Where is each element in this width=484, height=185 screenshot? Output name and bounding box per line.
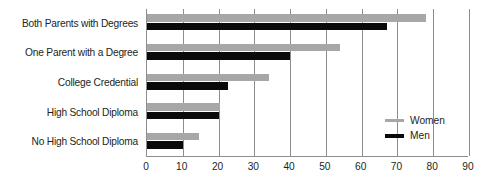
legend-swatch-men (385, 134, 404, 138)
bar-men (147, 23, 387, 31)
legend-label: Men (410, 130, 430, 142)
category-label: High School Diploma (0, 107, 138, 118)
bar-group (147, 44, 469, 61)
legend-item-women: Women (385, 113, 475, 128)
x-tick-label-0: 0 (143, 160, 149, 173)
bar-women (147, 103, 220, 111)
x-tick-label-50: 50 (319, 160, 330, 173)
chart-legend: WomenMen (385, 113, 475, 143)
x-tick-label-70: 70 (391, 160, 402, 173)
legend-swatch-women (385, 119, 404, 122)
bar-women (147, 14, 426, 22)
bar-men (147, 141, 183, 149)
legend-item-men: Men (385, 128, 475, 143)
bar-women (147, 74, 269, 82)
bar-group (147, 14, 469, 31)
bar-chart: Both Parents with DegreesOne Parent with… (0, 0, 484, 185)
x-tick-label-30: 30 (248, 160, 259, 173)
bar-men (147, 82, 228, 90)
category-label: Both Parents with Degrees (0, 18, 138, 29)
x-tick-label-60: 60 (355, 160, 366, 173)
x-tick-label-90: 90 (462, 160, 473, 173)
x-tick-label-10: 10 (176, 160, 187, 173)
category-label: College Credential (0, 77, 138, 88)
bar-men (147, 52, 290, 60)
category-label: No High School Diploma (0, 136, 138, 147)
bar-women (147, 133, 199, 141)
x-tick-label-40: 40 (283, 160, 294, 173)
category-axis: Both Parents with DegreesOne Parent with… (0, 0, 143, 185)
x-axis-tick-labels: 0102030405060708090 (146, 160, 468, 178)
bar-men (147, 112, 219, 120)
legend-label: Women (410, 115, 445, 127)
x-tick-label-20: 20 (212, 160, 223, 173)
bar-women (147, 44, 340, 52)
bar-group (147, 74, 469, 91)
category-label: One Parent with a Degree (0, 47, 138, 58)
x-tick-label-80: 80 (427, 160, 438, 173)
